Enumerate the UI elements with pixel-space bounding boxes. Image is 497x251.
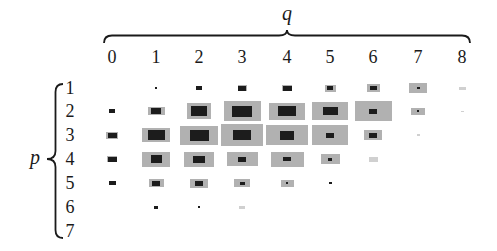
cell-outer-box [459, 87, 466, 90]
cell-inner-box [328, 158, 332, 161]
cell-inner-box [283, 157, 291, 161]
cell-inner-box [154, 206, 158, 209]
cell-inner-box [370, 86, 377, 90]
cell-outer-box [417, 134, 420, 136]
cell-inner-box [278, 106, 296, 116]
cell-inner-box [108, 133, 117, 138]
cell-inner-box [238, 157, 246, 162]
cell-inner-box [233, 130, 251, 140]
plot-area [0, 0, 497, 251]
cell-inner-box [240, 182, 245, 185]
cell-outer-box [369, 157, 378, 162]
cell-inner-box [369, 109, 377, 114]
cell-inner-box [326, 133, 334, 138]
cell-inner-box [286, 182, 288, 184]
cell-inner-box [108, 157, 117, 162]
cell-inner-box [327, 86, 333, 90]
cell-inner-box [152, 181, 160, 186]
cell-inner-box [109, 181, 116, 185]
cell-inner-box [417, 110, 419, 112]
cell-inner-box [155, 87, 157, 89]
cell-inner-box [232, 106, 252, 117]
cell-inner-box [196, 86, 202, 90]
cell-inner-box [280, 131, 294, 140]
cell-inner-box [190, 130, 209, 141]
cell-inner-box [151, 155, 162, 163]
cell-inner-box [195, 181, 203, 186]
cell-inner-box [369, 133, 377, 138]
cell-inner-box [417, 87, 420, 89]
cell-inner-box [151, 108, 161, 114]
cell-inner-box [198, 206, 200, 208]
cell-inner-box [323, 107, 338, 115]
cell-inner-box [329, 182, 332, 184]
cell-inner-box [109, 109, 115, 113]
cell-outer-box [461, 111, 464, 112]
cell-inner-box [193, 156, 205, 163]
cell-outer-box [239, 206, 245, 209]
cell-inner-box [283, 86, 292, 91]
cell-inner-box [238, 86, 246, 91]
cell-inner-box [191, 106, 207, 116]
cell-inner-box [148, 130, 165, 140]
